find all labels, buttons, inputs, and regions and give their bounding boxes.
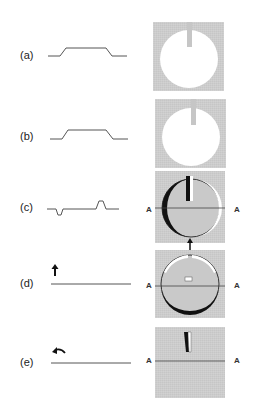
disc-with-notch-image bbox=[155, 99, 226, 168]
image-box-a bbox=[153, 22, 224, 91]
axis-label-right-d: A bbox=[234, 282, 240, 290]
profile-curve-a bbox=[44, 41, 134, 71]
shaded-disc-image bbox=[155, 171, 225, 243]
image-box-d bbox=[155, 250, 225, 318]
image-box-b bbox=[155, 99, 226, 168]
profile-curve-c bbox=[44, 195, 134, 225]
panel-label-a: (a) bbox=[20, 50, 33, 61]
panel-label-c: (c) bbox=[20, 202, 33, 213]
slit-image bbox=[155, 327, 225, 398]
axis-label-left-e: A bbox=[146, 357, 152, 365]
image-box-e bbox=[155, 327, 225, 398]
axis-label-right-c: A bbox=[234, 206, 240, 214]
panel-label-e: (e) bbox=[20, 357, 33, 368]
axis-label-left-d: A bbox=[146, 282, 152, 290]
profile-curve-b bbox=[44, 124, 134, 154]
axis-label-left-c: A bbox=[146, 206, 152, 214]
profile-curve-e bbox=[44, 349, 134, 379]
panel-label-b: (b) bbox=[20, 131, 33, 142]
image-box-c bbox=[155, 171, 225, 243]
axis-label-right-e: A bbox=[234, 357, 240, 365]
figure: (a) (b) (c) A A bbox=[0, 0, 253, 417]
panel-label-d: (d) bbox=[20, 278, 33, 289]
disc-with-notch-image bbox=[153, 22, 224, 91]
profile-curve-d bbox=[44, 270, 134, 300]
up-arrow-icon bbox=[186, 238, 194, 250]
shaded-disc-image bbox=[155, 250, 225, 318]
